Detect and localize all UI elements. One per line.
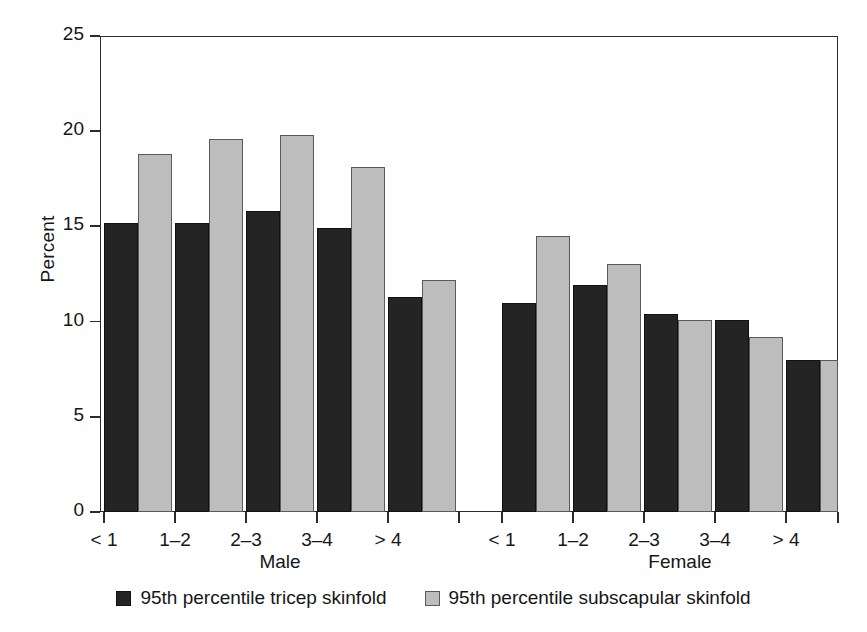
y-tick-label: 25 xyxy=(40,23,84,45)
bar-female-lt1-subscapular xyxy=(536,236,570,512)
legend-swatch-dark-icon xyxy=(116,591,131,606)
x-tick-label-female-gt4: > 4 xyxy=(742,529,830,551)
bar-female-2to3-tricep xyxy=(644,314,678,512)
bar-female-3to4-tricep xyxy=(715,320,749,512)
legend-item-tricep: 95th percentile tricep skinfold xyxy=(116,587,386,609)
x-tick-mark xyxy=(837,512,839,523)
bar-male-2to3-subscapular xyxy=(280,135,314,512)
y-tick-mark xyxy=(90,511,100,513)
bar-male-1to2-subscapular xyxy=(209,139,243,512)
legend-swatch-light-icon xyxy=(425,591,440,606)
bar-male-gt4-tricep xyxy=(388,297,422,512)
x-tick-mark xyxy=(387,512,389,523)
bar-female-lt1-tricep xyxy=(502,303,536,512)
x-tick-mark xyxy=(458,512,460,523)
x-tick-mark xyxy=(245,512,247,523)
bar-male-3to4-subscapular xyxy=(351,167,385,512)
y-tick-label: 10 xyxy=(40,309,84,331)
y-tick-label: 5 xyxy=(40,404,84,426)
y-axis-title: Percent xyxy=(37,189,59,309)
bar-male-1to2-tricep xyxy=(175,223,209,512)
y-tick-label: 20 xyxy=(40,118,84,140)
x-tick-mark xyxy=(785,512,787,523)
y-tick-mark xyxy=(90,35,100,37)
legend-label-subscapular: 95th percentile subscapular skinfold xyxy=(449,587,751,609)
y-tick-label: 0 xyxy=(40,499,84,521)
x-tick-mark xyxy=(572,512,574,523)
bar-female-gt4-tricep xyxy=(786,360,820,512)
bar-female-1to2-tricep xyxy=(573,285,607,512)
bar-female-2to3-subscapular xyxy=(678,320,712,512)
bar-male-gt4-subscapular xyxy=(422,280,456,512)
bar-female-1to2-subscapular xyxy=(607,264,641,512)
group-label-male: Male xyxy=(220,551,340,573)
bar-male-3to4-tricep xyxy=(317,228,351,512)
x-tick-mark xyxy=(643,512,645,523)
legend: 95th percentile tricep skinfold 95th per… xyxy=(0,587,867,609)
bar-female-3to4-subscapular xyxy=(749,337,783,512)
bar-female-gt4-subscapular xyxy=(820,360,838,512)
x-tick-mark xyxy=(501,512,503,523)
bar-male-lt1-tricep xyxy=(104,223,138,512)
y-tick-mark xyxy=(90,130,100,132)
x-tick-mark xyxy=(174,512,176,523)
x-tick-mark xyxy=(103,512,105,523)
x-tick-mark xyxy=(316,512,318,523)
group-label-female: Female xyxy=(620,551,740,573)
bar-male-2to3-tricep xyxy=(246,211,280,512)
bar-male-lt1-subscapular xyxy=(138,154,172,512)
legend-item-subscapular: 95th percentile subscapular skinfold xyxy=(425,587,751,609)
legend-label-tricep: 95th percentile tricep skinfold xyxy=(140,587,386,609)
y-tick-label: 15 xyxy=(40,213,84,235)
x-tick-label-male-gt4: > 4 xyxy=(344,529,432,551)
x-tick-mark xyxy=(714,512,716,523)
bar-chart: Percent 25 20 15 10 5 0 xyxy=(0,0,867,632)
y-tick-mark xyxy=(90,321,100,323)
y-tick-mark xyxy=(90,416,100,418)
y-tick-mark xyxy=(90,225,100,227)
